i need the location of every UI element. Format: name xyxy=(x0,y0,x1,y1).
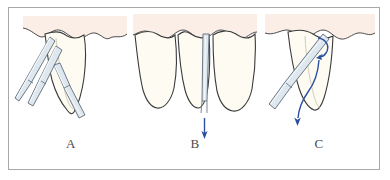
panel-label-a: A xyxy=(9,136,133,152)
panel-c-illustration xyxy=(257,8,381,143)
panel-b: B xyxy=(133,8,257,171)
panel-b-illustration xyxy=(133,8,257,143)
tooth-shape-b-right xyxy=(213,31,255,111)
panel-c: C xyxy=(257,8,381,171)
panel-a: A xyxy=(9,8,133,171)
panel-label-c: C xyxy=(257,136,381,152)
panel-a-illustration xyxy=(9,8,133,143)
figure-frame: A B xyxy=(8,7,380,170)
gingiva-shape-c xyxy=(265,14,375,39)
panel-label-b: B xyxy=(133,136,257,152)
tooth-shape-b-left xyxy=(135,31,176,108)
